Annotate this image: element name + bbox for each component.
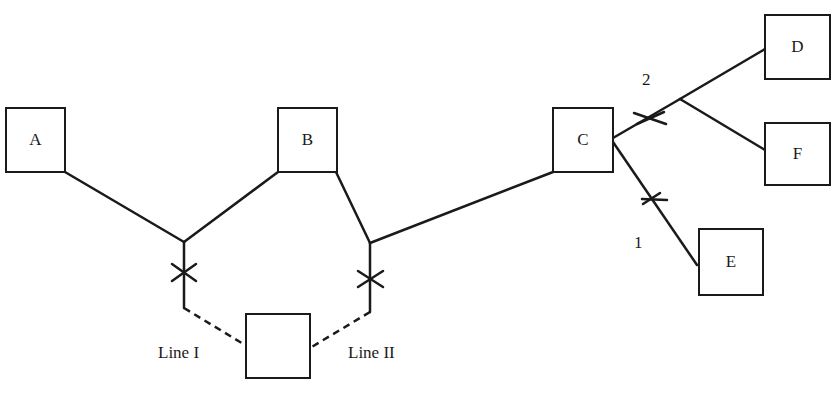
node-c[interactable]: C (552, 107, 614, 173)
connection-lines (0, 0, 836, 409)
node-a-label: A (29, 130, 41, 150)
node-b[interactable]: B (277, 107, 338, 173)
branch-2-label: 2 (642, 70, 651, 90)
node-f[interactable]: F (764, 122, 831, 186)
node-e-label: E (726, 252, 736, 272)
node-e[interactable]: E (698, 228, 764, 296)
node-d-label: D (791, 37, 803, 57)
branch-1-label: 1 (634, 233, 643, 253)
node-a[interactable]: A (5, 107, 66, 173)
node-center[interactable] (245, 313, 311, 379)
line-ii-label: Line II (348, 343, 395, 363)
node-f-label: F (793, 144, 802, 164)
line-i-label: Line I (158, 343, 199, 363)
node-b-label: B (302, 130, 313, 150)
node-d[interactable]: D (764, 14, 831, 80)
node-c-label: C (577, 130, 588, 150)
